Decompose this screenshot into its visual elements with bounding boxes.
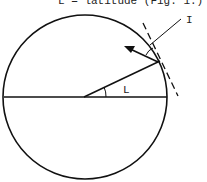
angle-label: L [123,84,130,96]
radius-line [84,61,160,97]
pointer-label: I [186,14,193,26]
tangent-line-dashed [143,23,178,96]
leader-line [150,19,181,45]
latitude-diagram: L = latitude (Fig. 1.) L I [0,0,207,182]
inclination-angle-arc [146,48,153,55]
latitude-angle-arc [104,87,106,97]
arrow-head-icon [124,46,135,53]
caption-partial: L = latitude (Fig. 1.) [58,0,203,7]
